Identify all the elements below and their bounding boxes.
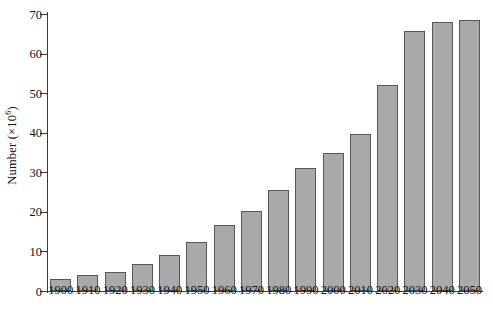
bar	[350, 134, 371, 291]
y-axis-title-close: )	[5, 106, 19, 110]
bar-chart-figure: Number (×106) 010203040506070 1900191019…	[0, 0, 493, 319]
x-axis-tick-label: 2050	[449, 283, 489, 298]
bar	[404, 31, 425, 291]
bar	[214, 225, 235, 291]
bar	[323, 153, 344, 292]
y-axis-tick-label: 30	[30, 165, 43, 180]
y-axis-tick-label: 40	[30, 126, 43, 141]
y-axis-title-text: Number (×106)	[5, 106, 20, 185]
y-axis-title-exponent: 6	[3, 111, 12, 115]
y-axis-tick-label: 50	[30, 86, 43, 101]
bar	[241, 211, 262, 291]
y-axis-tick-label: 10	[30, 244, 43, 259]
plot-area: 010203040506070	[47, 14, 483, 291]
y-axis-title: Number (×106)	[0, 0, 24, 291]
y-axis-tick-label: 70	[30, 7, 43, 22]
y-axis-tick-label: 20	[30, 205, 43, 220]
y-axis-tick-label: 60	[30, 47, 43, 62]
bar	[432, 22, 453, 291]
bar	[377, 85, 398, 291]
bar	[295, 168, 316, 291]
y-axis-title-base: Number (×10	[5, 115, 19, 185]
bar	[268, 190, 289, 291]
bar	[459, 20, 480, 291]
